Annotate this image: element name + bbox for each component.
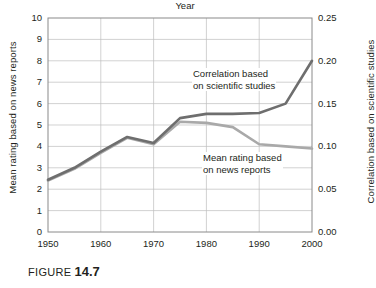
left-tick-label: 4 [18, 140, 42, 151]
caption-word: FIGURE [28, 266, 71, 278]
right-tick-label: 0.20 [318, 55, 348, 66]
x-tick-label: 1990 [239, 238, 279, 249]
x-tick-label: 1960 [81, 238, 121, 249]
x-tick-label: 1950 [28, 238, 68, 249]
annotation-correlation-line1: Correlation based [193, 68, 275, 80]
annotation-mean-rating-line1: Mean rating based [203, 152, 282, 164]
left-tick-label: 5 [18, 119, 42, 130]
right-tick-label: 0.05 [318, 183, 348, 194]
left-tick-label: 8 [18, 55, 42, 66]
right-tick-label: 0.10 [318, 140, 348, 151]
caption-number: 14.7 [74, 264, 99, 279]
annotation-mean-rating-line2: on news reports [203, 164, 282, 176]
x-tick-label: 1980 [186, 238, 226, 249]
left-tick-label: 0 [18, 226, 42, 237]
figure-caption: FIGURE 14.7 [28, 264, 100, 279]
left-tick-label: 1 [18, 205, 42, 216]
left-tick-label: 2 [18, 183, 42, 194]
left-tick-label: 7 [18, 76, 42, 87]
annotation-correlation: Correlation based on scientific studies [192, 68, 276, 91]
left-tick-label: 9 [18, 33, 42, 44]
annotation-correlation-line2: on scientific studies [193, 80, 275, 92]
right-tick-label: 0.15 [318, 98, 348, 109]
right-tick-label: 0.00 [318, 226, 348, 237]
x-tick-label: 2000 [292, 238, 332, 249]
left-tick-label: 6 [18, 98, 42, 109]
right-tick-label: 0.25 [318, 12, 348, 23]
annotation-mean-rating: Mean rating based on news reports [202, 152, 283, 175]
left-tick-label: 10 [18, 12, 42, 23]
x-tick-label: 1970 [134, 238, 174, 249]
left-tick-label: 3 [18, 162, 42, 173]
